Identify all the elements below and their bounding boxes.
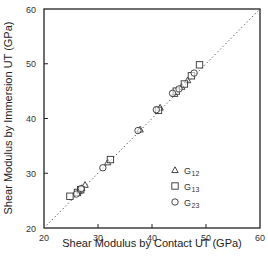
y-tick-label: 50 (26, 59, 36, 69)
circle-marker (191, 70, 197, 76)
square-marker (181, 81, 187, 87)
data-points (67, 62, 203, 200)
circle-marker (73, 191, 79, 197)
legend: G12G13G23 (172, 166, 200, 210)
x-tick-label: 60 (255, 233, 265, 243)
y-tick-label: 30 (26, 169, 36, 179)
circle-legend-icon (172, 199, 178, 205)
circle-marker (100, 165, 106, 171)
circle-marker (176, 86, 182, 92)
square-legend-icon (172, 183, 178, 189)
y-axis-title: Shear Modulus by Immersion UT (GPa) (2, 22, 14, 215)
circle-marker (78, 185, 84, 191)
tick-labels: 20304050602030405060 (26, 5, 265, 244)
legend-label: G13 (184, 182, 199, 194)
circle-marker (169, 90, 175, 96)
square-marker (107, 156, 113, 162)
x-axis-title: Shear Modulus by Contact UT (GPa) (62, 237, 242, 249)
scatter-chart: 20304050602030405060 G12G13G23 Shear Mod… (0, 0, 268, 262)
square-marker (196, 62, 202, 68)
circle-marker (153, 107, 159, 113)
legend-label: G12 (184, 166, 199, 178)
circle-marker (135, 127, 141, 133)
square-marker (67, 193, 73, 199)
y-tick-label: 60 (26, 5, 36, 15)
triangle-legend-icon (172, 167, 178, 173)
y-tick-label: 20 (26, 224, 36, 234)
x-tick-label: 20 (39, 233, 49, 243)
y-tick-label: 40 (26, 114, 36, 124)
legend-label: G23 (184, 198, 199, 210)
